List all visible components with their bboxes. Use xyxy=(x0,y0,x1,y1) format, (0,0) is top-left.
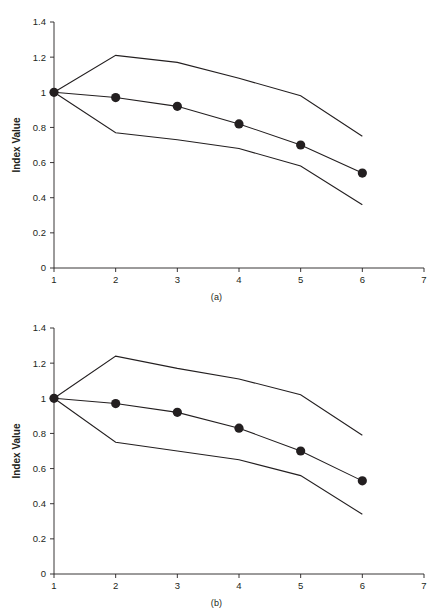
chart-panel-a: 00.20.40.60.811.21.41234567Index ValueTi… xyxy=(0,0,433,288)
series-line-b-0 xyxy=(54,356,362,435)
series-marker-a-1-2 xyxy=(173,102,182,111)
y-tick-label-b-7: 1.4 xyxy=(33,322,46,333)
x-tick-label-b-3: 4 xyxy=(236,580,241,591)
figure-two-panel-index-charts: 00.20.40.60.811.21.41234567Index ValueTi… xyxy=(0,0,433,612)
y-tick-label-a-1: 0.2 xyxy=(33,227,46,238)
x-tick-label-b-0: 1 xyxy=(51,580,56,591)
y-tick-label-a-4: 0.8 xyxy=(33,122,46,133)
chart-a-caption: (a) xyxy=(0,288,433,306)
chart-b-caption: (b) xyxy=(0,594,433,612)
series-marker-a-1-4 xyxy=(296,140,305,149)
x-tick-label-b-2: 3 xyxy=(175,580,180,591)
y-tick-label-a-0: 0 xyxy=(41,262,46,273)
y-tick-label-a-2: 0.4 xyxy=(33,192,46,203)
y-tick-label-b-0: 0 xyxy=(41,568,46,579)
chart-a-canvas: 00.20.40.60.811.21.41234567Index ValueTi… xyxy=(0,0,433,288)
y-tick-label-b-4: 0.8 xyxy=(33,428,46,439)
series-marker-b-1-4 xyxy=(296,446,305,455)
y-axis-title-a: Index Value xyxy=(11,117,22,172)
y-tick-label-b-2: 0.4 xyxy=(33,498,46,509)
x-tick-label-a-5: 6 xyxy=(360,274,365,285)
y-tick-label-b-1: 0.2 xyxy=(33,533,46,544)
series-marker-b-1-3 xyxy=(234,424,243,433)
series-line-b-2 xyxy=(54,398,362,514)
series-line-b-1 xyxy=(54,398,362,481)
x-tick-label-a-6: 7 xyxy=(421,274,426,285)
y-tick-label-a-5: 1 xyxy=(41,87,46,98)
y-tick-label-b-5: 1 xyxy=(41,393,46,404)
y-tick-label-a-6: 1.2 xyxy=(33,52,46,63)
series-marker-b-1-1 xyxy=(111,399,120,408)
series-line-a-1 xyxy=(54,92,362,173)
y-tick-label-b-3: 0.6 xyxy=(33,463,46,474)
y-axis-title-b: Index Value xyxy=(11,423,22,478)
series-marker-b-1-0 xyxy=(49,394,58,403)
x-tick-label-a-3: 4 xyxy=(236,274,241,285)
series-marker-b-1-2 xyxy=(173,408,182,417)
series-marker-a-1-1 xyxy=(111,93,120,102)
series-marker-b-1-5 xyxy=(358,476,367,485)
x-tick-label-a-1: 2 xyxy=(113,274,118,285)
x-tick-label-b-1: 2 xyxy=(113,580,118,591)
y-tick-label-a-7: 1.4 xyxy=(33,16,46,27)
series-marker-a-1-3 xyxy=(234,119,243,128)
x-tick-label-a-4: 5 xyxy=(298,274,303,285)
series-line-a-2 xyxy=(54,92,362,204)
chart-b-canvas: 00.20.40.60.811.21.41234567Index ValueTi… xyxy=(0,306,433,594)
x-tick-label-b-6: 7 xyxy=(421,580,426,591)
x-tick-label-a-2: 3 xyxy=(175,274,180,285)
x-tick-label-b-4: 5 xyxy=(298,580,303,591)
series-marker-a-1-5 xyxy=(358,169,367,178)
x-tick-label-b-5: 6 xyxy=(360,580,365,591)
x-tick-label-a-0: 1 xyxy=(51,274,56,285)
chart-panel-b: 00.20.40.60.811.21.41234567Index ValueTi… xyxy=(0,306,433,594)
y-tick-label-b-6: 1.2 xyxy=(33,358,46,369)
y-tick-label-a-3: 0.6 xyxy=(33,157,46,168)
